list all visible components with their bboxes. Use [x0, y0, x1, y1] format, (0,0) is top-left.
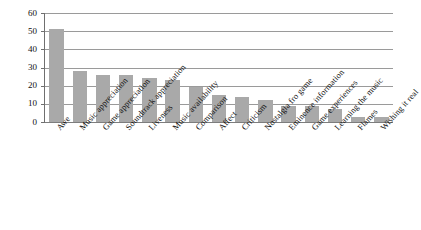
x-axis-category-label: Wishing it real — [379, 88, 420, 132]
x-axis-category-label: Flames — [356, 107, 380, 132]
x-axis-category-label: Awe — [55, 114, 72, 132]
x-axis-category-label: Affect — [217, 110, 239, 132]
